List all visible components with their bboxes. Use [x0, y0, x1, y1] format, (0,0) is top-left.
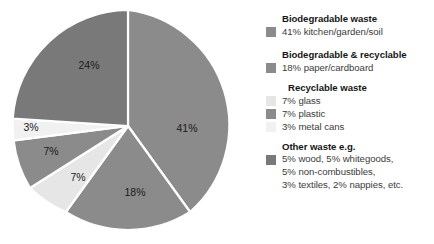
legend-item-label: 5% non-combustibles,	[282, 166, 375, 178]
legend-item-kitchen-garden-soil[interactable]: 41% kitchen/garden/soil	[266, 25, 434, 38]
pie-label-24: 24%	[78, 59, 99, 71]
legend-group-biodegradable-waste: Biodegradable waste 41% kitchen/garden/s…	[266, 12, 434, 38]
pie-label-3: 3%	[23, 121, 38, 133]
legend-item-label: 3% metal cans	[282, 120, 344, 133]
legend-item-other-waste-line1[interactable]: 5% wood, 5% whitegoods,	[266, 153, 434, 166]
legend-item-metal-cans[interactable]: 3% metal cans	[266, 120, 434, 133]
legend-group-recyclable-waste: Recyclable waste 7% glass 7% plastic 3% …	[266, 81, 434, 133]
legend-swatch-icon	[266, 27, 276, 37]
chart-legend: Biodegradable waste 41% kitchen/garden/s…	[266, 12, 434, 193]
legend-heading: Biodegradable & recyclable	[266, 48, 434, 61]
pie-label-7-plastic: 7%	[43, 145, 58, 157]
chart-container: 41% 18% 7% 7% 3% 24% Biodegradable waste…	[0, 0, 434, 244]
legend-swatch-icon	[266, 109, 276, 119]
legend-heading: Recyclable waste	[266, 81, 434, 94]
legend-swatch-placeholder	[266, 168, 276, 178]
legend-swatch-icon	[266, 63, 276, 73]
legend-heading: Biodegradable waste	[266, 12, 434, 25]
legend-heading: Other waste e.g.	[266, 140, 434, 153]
legend-item-label: 18% paper/cardboard	[282, 61, 373, 74]
pie-chart-svg: 41% 18% 7% 7% 3% 24%	[0, 0, 262, 244]
legend-item-label: 41% kitchen/garden/soil	[282, 25, 383, 38]
legend-group-biodegradable-recyclable: Biodegradable & recyclable 18% paper/car…	[266, 48, 434, 74]
legend-item-other-waste-line2: 5% non-combustibles,	[266, 166, 434, 179]
legend-swatch-placeholder	[266, 181, 276, 191]
legend-item-label: 7% plastic	[282, 107, 325, 120]
legend-item-plastic[interactable]: 7% plastic	[266, 107, 434, 120]
legend-item-label: 5% wood, 5% whitegoods,	[282, 153, 393, 165]
legend-group-other-waste: Other waste e.g. 5% wood, 5% whitegoods,…	[266, 140, 434, 192]
pie-label-41: 41%	[176, 122, 197, 134]
pie-slice-other-waste[interactable]	[13, 10, 128, 126]
legend-swatch-icon	[266, 122, 276, 132]
legend-item-label: 7% glass	[282, 94, 321, 107]
legend-item-other-waste-line3: 3% textiles, 2% nappies, etc.	[266, 179, 434, 192]
legend-spacer	[266, 39, 434, 48]
pie-label-18: 18%	[124, 186, 145, 198]
legend-swatch-icon	[266, 155, 276, 165]
legend-item-glass[interactable]: 7% glass	[266, 94, 434, 107]
legend-swatch-icon	[266, 96, 276, 106]
legend-item-label: 3% textiles, 2% nappies, etc.	[282, 179, 403, 191]
pie-chart: 41% 18% 7% 7% 3% 24%	[0, 0, 262, 244]
legend-item-paper-cardboard[interactable]: 18% paper/cardboard	[266, 61, 434, 74]
pie-label-7-glass: 7%	[70, 171, 85, 183]
